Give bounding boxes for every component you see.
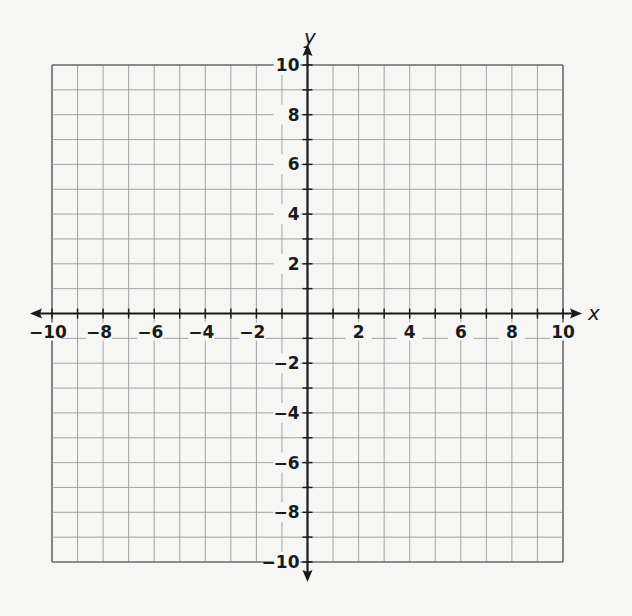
x-tick-label: 10 [551, 322, 575, 342]
axes [30, 44, 582, 582]
y-tick-label: −6 [273, 453, 299, 473]
x-tick-label: −4 [188, 322, 214, 342]
y-axis-label: y [303, 25, 317, 49]
x-tick-label: −8 [86, 322, 112, 342]
x-tick-label: −10 [29, 322, 67, 342]
x-tick-label: −2 [239, 322, 265, 342]
x-tick-label: 2 [353, 322, 365, 342]
x-tick-label: 4 [404, 322, 416, 342]
y-tick-label: 2 [288, 254, 300, 274]
x-axis-label: x [587, 301, 600, 325]
y-tick-label: 4 [288, 204, 300, 224]
y-tick-label: −8 [273, 502, 299, 522]
coordinate-plane: −10−8−6−4−2246810108642−2−4−6−8−10 x y [0, 0, 632, 616]
coordinate-plane-svg: −10−8−6−4−2246810108642−2−4−6−8−10 x y [0, 0, 632, 616]
y-tick-label: −10 [262, 552, 300, 572]
x-tick-label: −6 [137, 322, 163, 342]
x-tick-label: 8 [506, 322, 518, 342]
y-tick-label: 8 [288, 105, 300, 125]
y-tick-label: 6 [288, 154, 300, 174]
y-tick-label: 10 [276, 55, 300, 75]
y-tick-label: −4 [273, 403, 299, 423]
x-tick-label: 6 [455, 322, 467, 342]
y-tick-label: −2 [273, 353, 299, 373]
